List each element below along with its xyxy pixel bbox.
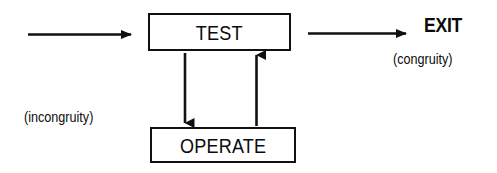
- edge-label-congruity: (congruity): [393, 52, 453, 66]
- tote-diagram: TEST OPERATE EXIT (congruity) (incongrui…: [0, 0, 497, 173]
- node-operate: OPERATE: [150, 127, 296, 163]
- edge-label-incongruity: (incongruity): [24, 110, 93, 124]
- node-test: TEST: [148, 13, 291, 51]
- terminal-exit-label: EXIT: [424, 15, 462, 35]
- node-test-label: TEST: [196, 22, 243, 43]
- node-operate-label: OPERATE: [180, 135, 266, 156]
